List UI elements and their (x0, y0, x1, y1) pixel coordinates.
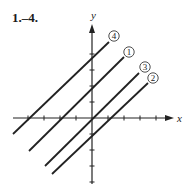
graph-line (52, 83, 148, 174)
line-label: 2 (151, 73, 156, 83)
line-2: 2 (52, 73, 158, 174)
x-axis-label: x (176, 112, 182, 124)
coordinate-plane: x y 4132 (0, 0, 191, 194)
line-label: 3 (143, 62, 148, 72)
line-3: 3 (45, 62, 150, 166)
x-axis-arrow-icon (165, 115, 174, 121)
line-label: 4 (112, 31, 117, 41)
line-label: 1 (127, 47, 132, 57)
line-1: 1 (29, 47, 134, 151)
y-axis-arrow-icon (89, 24, 95, 33)
y-axis-label: y (90, 9, 96, 21)
lines-group: 4132 (13, 31, 158, 174)
